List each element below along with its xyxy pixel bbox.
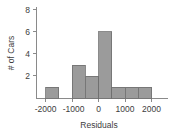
y-axis-ticks	[33, 10, 37, 76]
bar-bin-3	[85, 76, 98, 98]
bar-bin-0	[46, 87, 59, 98]
chart-canvas: 8 6 4 2 # of Cars -2000 -1000 0 1000	[0, 0, 176, 139]
x-tick-label-0: 0	[96, 104, 101, 114]
histogram-figure: 8 6 4 2 # of Cars -2000 -1000 0 1000	[0, 0, 176, 139]
y-axis-title: # of Cars	[6, 36, 16, 71]
x-tick-label-2000: 2000	[142, 104, 161, 114]
x-tick-label-neg1000: -1000	[63, 104, 85, 114]
bar-bin-7	[138, 87, 151, 98]
bars-group	[46, 32, 152, 99]
y-tick-label-2: 2	[25, 71, 30, 81]
y-tick-label-8: 8	[25, 5, 30, 15]
y-tick-label-6: 6	[25, 27, 30, 37]
bar-bin-5	[112, 87, 125, 98]
x-axis-title: Residuals	[80, 120, 117, 130]
bar-bin-4	[99, 32, 112, 99]
y-tick-label-4: 4	[25, 49, 30, 59]
bar-bin-6	[125, 87, 138, 98]
x-tick-label-neg2000: -2000	[35, 104, 57, 114]
bar-bin-2	[72, 65, 85, 98]
plot-area: 8 6 4 2 # of Cars -2000 -1000 0 1000	[0, 0, 176, 139]
x-axis-ticks	[46, 99, 152, 103]
x-tick-label-1000: 1000	[116, 104, 135, 114]
